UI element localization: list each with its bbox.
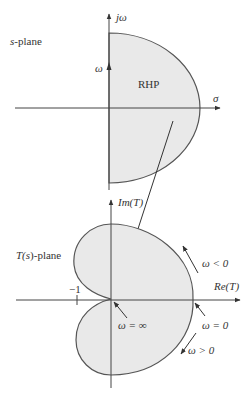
t-plane-suffix: )-plane	[30, 249, 61, 261]
omega-zero-label: ω = 0	[202, 320, 228, 331]
minus-one-label: −1	[69, 284, 81, 295]
omega-label: ω	[95, 63, 103, 74]
s-plane-suffix: -plane	[14, 35, 41, 47]
omega-zero-pointer	[195, 303, 205, 316]
t-plane-label: T(s)-plane	[16, 250, 61, 261]
omega-pos-label: ω > 0	[188, 345, 214, 356]
re-axis-label: Re(T)	[214, 281, 239, 292]
rhp-label: RHP	[138, 79, 159, 90]
t-plane-prefix: T(	[16, 249, 26, 261]
im-axis-label: Im(T)	[118, 197, 143, 208]
omega-neg-label: ω < 0	[202, 258, 228, 269]
s-plane-label: s-plane	[10, 36, 42, 47]
omega-inf-label: ω = ∞	[118, 320, 147, 331]
sigma-axis-label: σ	[213, 93, 218, 104]
jomega-axis-label: jω	[116, 12, 127, 23]
